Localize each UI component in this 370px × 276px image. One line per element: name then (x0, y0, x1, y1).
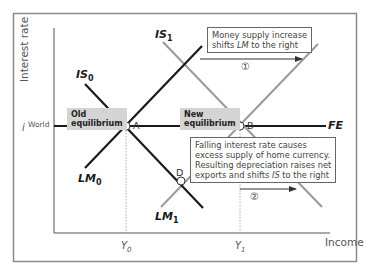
i-world-label: i World (22, 120, 49, 133)
step-1-marker: ① (241, 61, 250, 72)
is0-label: IS0 (76, 68, 94, 83)
depreciation-note: Falling interest rate causes excess supp… (190, 137, 336, 183)
point-a-label: A (133, 120, 140, 131)
is1-label: IS1 (155, 28, 173, 43)
money-supply-note: Money supply increase shifts LM to the r… (207, 27, 312, 53)
fe-label: FE (328, 119, 343, 132)
new-equilibrium-label: New equilibrium (180, 108, 240, 130)
x-axis-label: Income (325, 236, 364, 248)
point-b-label: B (247, 120, 254, 131)
old-equilibrium-label: Old equilibrium equilibrium (67, 108, 127, 130)
islm-fe-diagram: Interest rate Income i World Y0 Y1 IS0 I… (0, 0, 370, 276)
lm1-label: LM1 (155, 210, 179, 225)
y-axis-label: Interest rate (18, 17, 30, 82)
lm0-curve (85, 46, 202, 168)
y1-label: Y1 (235, 240, 246, 254)
y0-label: Y0 (121, 240, 132, 254)
is0-curve (85, 84, 203, 208)
point-d-label: D (176, 167, 183, 178)
point-d-marker (177, 177, 185, 185)
lm0-label: LM0 (78, 172, 102, 187)
step-2-marker: ② (250, 191, 259, 202)
